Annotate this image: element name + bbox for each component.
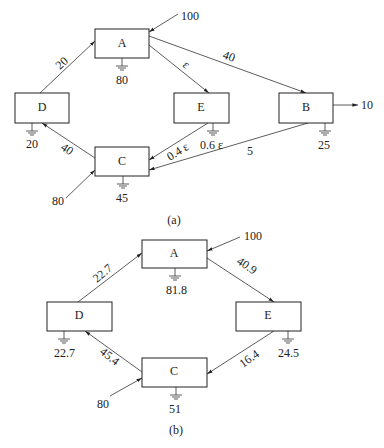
ground-icon-e <box>282 331 294 343</box>
ground-icon-d <box>58 331 70 343</box>
loss-c: 45 <box>116 191 128 205</box>
ground-icon-d <box>26 123 38 135</box>
loss-a: 80 <box>116 73 128 87</box>
input-arrow-c <box>110 378 142 396</box>
input-arrow-c <box>66 170 95 198</box>
input-c-value: 80 <box>97 397 109 411</box>
ground-icon-a <box>116 58 128 70</box>
loss-d: 20 <box>26 137 38 151</box>
input-a-value: 100 <box>181 9 199 23</box>
node-a-label: A <box>118 36 127 50</box>
flow-diagram: A D E B C 80 20 0.6 ε 25 45 100 <box>0 0 384 448</box>
output-b-value: 10 <box>361 98 373 112</box>
diagram-a: A D E B C 80 20 0.6 ε 25 45 100 <box>15 9 373 227</box>
node-a-label: A <box>170 246 179 260</box>
loss-c: 51 <box>169 402 181 416</box>
caption-a: (a) <box>167 213 180 227</box>
edge-label-a-e: 40.9 <box>234 254 259 277</box>
node-e-label: E <box>197 100 204 114</box>
node-e-label: E <box>264 308 271 322</box>
input-c-value: 80 <box>52 194 64 208</box>
edge-label-a-b: 40 <box>221 48 237 65</box>
edge-e-to-c <box>207 331 274 374</box>
edge-label-a-e: ε <box>180 58 193 72</box>
loss-e: 24.5 <box>278 346 299 360</box>
edge-a-to-e <box>149 45 209 93</box>
ground-icon-c <box>170 387 182 399</box>
node-c-label: C <box>118 154 126 168</box>
loss-a: 81.8 <box>166 283 187 297</box>
edge-label-d-a: 22.7 <box>90 261 115 285</box>
edge-label-b-c: 5 <box>247 144 253 158</box>
ground-icon-e <box>207 123 219 135</box>
edge-label-e-c: 0.4 ε <box>164 139 191 163</box>
diagram-b: A D E C 81.8 22.7 24.5 51 100 80 22.7 40… <box>47 229 301 437</box>
node-b-label: B <box>302 100 310 114</box>
edge-a-to-b <box>149 36 306 93</box>
node-c-label: C <box>170 364 178 378</box>
loss-d: 22.7 <box>54 346 75 360</box>
edge-d-to-a <box>78 253 142 302</box>
ground-icon-b <box>319 123 331 135</box>
edge-label-e-c: 16.4 <box>237 347 262 371</box>
node-d-label: D <box>75 308 84 322</box>
input-arrow-a <box>149 14 178 32</box>
input-arrow-a <box>207 237 240 251</box>
edge-label-c-d: 40 <box>58 140 76 158</box>
ground-icon-c <box>117 176 129 188</box>
edge-label-d-a: 20 <box>52 54 70 72</box>
edge-label-c-d: 45.4 <box>97 344 122 368</box>
caption-b: (b) <box>169 423 183 437</box>
loss-e: 0.6 ε <box>200 138 223 152</box>
ground-icon-a <box>169 268 181 280</box>
loss-b: 25 <box>318 138 330 152</box>
input-a-value: 100 <box>244 229 262 243</box>
node-d-label: D <box>38 100 47 114</box>
